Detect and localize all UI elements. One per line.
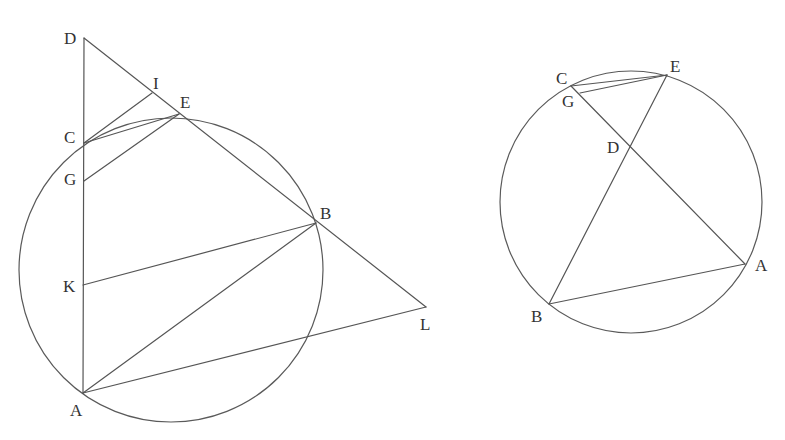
right-label-d: D	[607, 138, 619, 157]
left-segment-ge	[84, 114, 179, 181]
right-label-g: G	[562, 92, 574, 111]
left-label-d: D	[64, 29, 76, 48]
left-label-c: C	[64, 128, 75, 147]
left-label-i: I	[153, 74, 159, 93]
left-label-k: K	[63, 277, 76, 296]
left-circle	[19, 118, 323, 422]
right-segment-ca	[571, 86, 745, 264]
left-label-g: G	[64, 170, 76, 189]
right-label-a: A	[755, 256, 768, 275]
left-label-l: L	[420, 315, 430, 334]
left-label-b: B	[320, 204, 331, 223]
left-figure: DIECGKBLA	[19, 29, 430, 422]
left-segment-da	[83, 38, 84, 393]
left-label-e: E	[180, 93, 190, 112]
geometry-diagram: DIECGKBLA CEGDAB	[0, 0, 785, 440]
right-label-b: B	[531, 307, 542, 326]
left-segment-ci	[84, 93, 152, 143]
left-segment-ce	[84, 114, 179, 143]
left-segment-kb	[83, 223, 316, 285]
right-circle	[500, 71, 762, 333]
right-figure: CEGDAB	[500, 57, 768, 333]
left-segment-dl	[84, 38, 426, 307]
right-segment-ba	[549, 264, 745, 304]
right-label-c: C	[556, 69, 567, 88]
right-label-e: E	[670, 57, 680, 76]
left-label-a: A	[70, 401, 83, 420]
left-segment-ab	[83, 223, 316, 393]
left-segment-al	[83, 307, 426, 393]
